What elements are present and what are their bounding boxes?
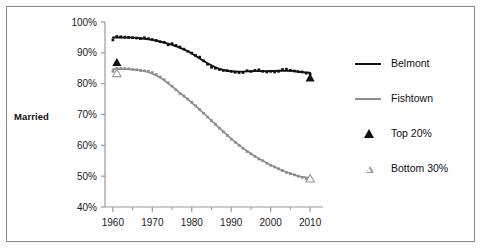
data-point [131,68,134,71]
data-point [226,69,229,72]
data-point [206,63,209,66]
legend-item-fishtown[interactable]: Fishtown [355,93,475,105]
marker-filled-triangle [306,74,315,82]
data-point [112,70,115,73]
data-point [147,37,150,40]
data-point [127,68,130,71]
y-tick-label: 50% [77,171,97,182]
data-point [214,123,217,126]
data-point [190,52,193,55]
data-point [143,36,146,39]
data-point [273,166,276,169]
data-point [155,73,158,76]
data-point [112,39,115,42]
legend-item-bottom-30[interactable]: Bottom 30% [355,163,475,175]
x-tick-label: 1960 [102,217,125,228]
legend-label-bottom-30: Bottom 30% [391,162,448,174]
legend-label-fishtown: Fishtown [391,92,433,104]
legend-label-top-20: Top 20% [391,127,432,139]
data-point [171,42,174,45]
x-tick-label: 1980 [181,217,204,228]
y-axis-ticks: 100%90%80%70%60%50%40% [71,17,105,213]
data-point [175,88,178,91]
data-point [230,70,233,73]
data-point [202,60,205,63]
data-point [246,69,249,72]
data-point [186,98,189,101]
data-point [281,68,284,71]
data-point [147,70,150,73]
data-point [163,78,166,81]
data-point [190,101,193,104]
data-point [293,70,296,73]
data-point [238,71,241,74]
data-point [171,85,174,88]
data-point [206,116,209,119]
data-point [222,69,225,72]
belmont-line-swatch-icon [355,58,383,70]
data-point [257,158,260,161]
data-point [261,70,264,73]
data-point [301,71,304,74]
x-tick-label: 1970 [141,217,164,228]
data-point [269,70,272,73]
data-point [123,36,126,39]
data-point [222,130,225,133]
data-point [246,150,249,153]
x-axis-ticks: 196019701980199020002010 [102,207,322,228]
data-point [301,176,304,179]
data-point [230,138,233,141]
data-point [119,35,122,38]
data-point [234,71,237,74]
data-point [198,56,201,59]
data-point [139,69,142,72]
filled-triangle-icon [355,128,383,140]
data-point [151,71,154,74]
marker-filled-triangle [112,58,121,66]
data-point [198,108,201,111]
data-point [250,70,253,73]
trend-line [113,69,310,178]
data-point [123,67,126,70]
data-point [242,71,245,74]
data-point [277,167,280,170]
series-fishtown [112,67,312,181]
data-point [143,69,146,72]
data-point [202,112,205,115]
data-point [254,155,257,158]
highlight-markers-layer [112,58,314,182]
data-point [218,68,221,71]
data-point [269,164,272,167]
data-point [127,36,130,39]
legend-item-belmont[interactable]: Belmont [355,58,475,70]
data-point [210,119,213,122]
data-point [135,68,138,71]
data-point [265,162,268,165]
data-point [151,38,154,41]
data-point [281,169,284,172]
open-triangle-icon [355,163,383,175]
data-point [250,153,253,156]
data-point [254,69,257,72]
legend-item-top-20[interactable]: Top 20% [355,128,475,140]
data-point [277,70,280,73]
data-point [131,36,134,39]
data-point [194,105,197,108]
axis-lines [105,22,323,207]
data-point [194,54,197,57]
y-tick-label: 90% [77,47,97,58]
y-tick-label: 80% [77,78,97,89]
data-series-layer [112,35,312,181]
data-point [183,95,186,98]
data-point [155,39,158,42]
data-point [186,50,189,53]
y-tick-label: 60% [77,140,97,151]
chart-figure: Married 100%90%80%70%60%50%40% 196019701… [0,0,481,248]
y-tick-label: 100% [71,17,97,28]
data-point [179,92,182,95]
data-point [257,68,260,71]
data-point [261,159,264,162]
data-point [293,174,296,177]
fishtown-line-swatch-icon [355,93,383,105]
data-point [159,76,162,79]
